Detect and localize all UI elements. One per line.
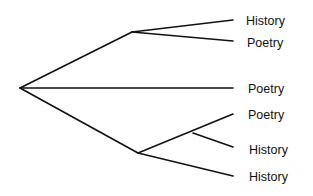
leaf-labels: History Poetry Poetry Poetry History His… — [246, 14, 289, 184]
leaf-label-1: History — [246, 14, 286, 28]
tree-diagram: History Poetry Poetry Poetry History His… — [0, 0, 313, 196]
leaf-label-5: History — [249, 143, 289, 157]
tree-edges — [20, 20, 233, 176]
leaf-label-3: Poetry — [248, 82, 285, 96]
leaf-label-2: Poetry — [247, 36, 284, 50]
tree-edge-3 — [132, 32, 233, 41]
leaf-label-4: Poetry — [248, 108, 285, 122]
tree-edge-2 — [132, 20, 233, 32]
tree-edge-1 — [20, 32, 132, 88]
tree-svg: History Poetry Poetry Poetry History His… — [0, 0, 313, 196]
tree-edge-5 — [20, 88, 138, 153]
tree-edge-6 — [138, 114, 233, 153]
leaf-label-6: History — [249, 170, 289, 184]
tree-edge-7 — [193, 133, 233, 147]
tree-edge-8 — [138, 153, 233, 176]
